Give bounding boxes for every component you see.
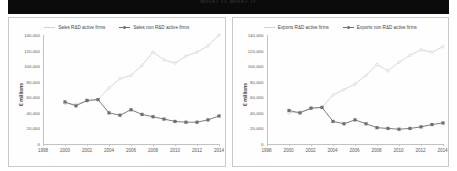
plot-area-sales: € millions020,00040,00060,00080,000100,0… — [9, 18, 225, 166]
data-point-marker — [218, 34, 221, 37]
data-point-marker — [151, 115, 154, 118]
data-point-marker — [397, 61, 400, 64]
data-point-marker — [119, 77, 122, 80]
data-point-marker — [408, 54, 411, 57]
data-point-marker — [63, 100, 66, 103]
data-point-marker — [342, 122, 345, 125]
data-point-marker — [386, 127, 389, 130]
data-point-marker — [196, 51, 199, 54]
data-point-marker — [364, 122, 367, 125]
data-point-marker — [184, 121, 187, 124]
data-point-marker — [108, 87, 111, 90]
data-point-marker — [342, 88, 345, 91]
data-point-marker — [408, 127, 411, 130]
data-point-marker — [331, 94, 334, 97]
chart-panel-exports: Exports R&D active firms Exports non R&D… — [232, 17, 450, 167]
data-point-marker — [375, 63, 378, 66]
data-point-marker — [353, 118, 356, 121]
series-line — [65, 100, 219, 123]
data-point-marker — [287, 109, 290, 112]
data-point-marker — [141, 64, 144, 67]
banner-title: WHAT IT WHAT IT — [8, 0, 449, 4]
data-point-marker — [397, 128, 400, 131]
data-point-marker — [129, 108, 132, 111]
data-point-marker — [419, 48, 422, 51]
series-layer — [9, 18, 225, 166]
data-point-marker — [140, 113, 143, 116]
data-point-marker — [107, 111, 110, 114]
top-banner: WHAT IT WHAT IT — [8, 0, 449, 14]
data-point-marker — [441, 121, 444, 124]
data-point-marker — [386, 70, 389, 73]
data-point-marker — [441, 45, 444, 48]
data-point-marker — [163, 59, 166, 62]
data-point-marker — [430, 123, 433, 126]
data-point-marker — [364, 74, 367, 77]
plot-area-exports: € millions020,00040,00060,00080,000100,0… — [233, 18, 449, 166]
data-point-marker — [152, 51, 155, 54]
data-point-marker — [353, 83, 356, 86]
data-point-marker — [195, 121, 198, 124]
data-point-marker — [185, 55, 188, 58]
data-point-marker — [207, 45, 210, 48]
data-point-marker — [375, 126, 378, 129]
data-point-marker — [130, 74, 133, 77]
series-line — [289, 47, 443, 113]
data-point-marker — [96, 98, 99, 101]
data-point-marker — [173, 120, 176, 123]
data-point-marker — [118, 114, 121, 117]
chart-panel-sales: Sales R&D active firms Sales non R&D act… — [8, 17, 226, 167]
data-point-marker — [298, 111, 301, 114]
data-point-marker — [162, 117, 165, 120]
data-point-marker — [430, 51, 433, 54]
data-point-marker — [74, 104, 77, 107]
series-line — [65, 35, 219, 104]
data-point-marker — [206, 118, 209, 121]
charts-container: Sales R&D active firms Sales non R&D act… — [8, 17, 449, 167]
data-point-marker — [320, 106, 323, 109]
data-point-marker — [174, 62, 177, 65]
data-point-marker — [309, 107, 312, 110]
data-point-marker — [419, 125, 422, 128]
data-point-marker — [85, 99, 88, 102]
series-layer — [233, 18, 449, 166]
data-point-marker — [331, 120, 334, 123]
data-point-marker — [217, 114, 220, 117]
